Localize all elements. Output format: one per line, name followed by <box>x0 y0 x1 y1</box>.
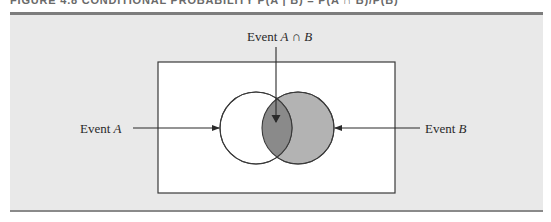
intersection-label-prefix: Event <box>247 29 277 44</box>
event-b-label-var: B <box>459 121 467 136</box>
event-b-label: Event B <box>425 122 467 135</box>
event-a-label-prefix: Event <box>80 121 110 136</box>
event-a-label-var: A <box>114 121 122 136</box>
intersection-label-var: A ∩ B <box>281 29 313 44</box>
event-b-label-prefix: Event <box>425 121 455 136</box>
intersection-label: Event A ∩ B <box>247 30 312 43</box>
event-a-label: Event A <box>80 122 122 135</box>
